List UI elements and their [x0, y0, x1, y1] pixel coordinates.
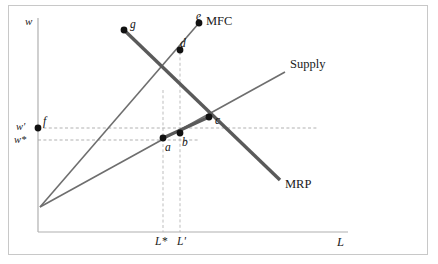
- curve-supply-emphasis: [163, 117, 209, 138]
- x-axis-label: L: [337, 236, 344, 249]
- point-label-e: e: [196, 11, 201, 23]
- point-f: [35, 125, 42, 132]
- y-axis-label: w: [25, 16, 32, 27]
- point-label-d: d: [180, 38, 186, 50]
- curve-label-supply: Supply: [290, 58, 325, 71]
- x-tick-L-prime: L': [177, 236, 186, 248]
- curve-label-mfc: MFC: [206, 15, 232, 28]
- y-tick-w-prime: w': [16, 122, 25, 133]
- point-label-f: f: [43, 116, 46, 128]
- curve-label-mrp: MRP: [285, 178, 311, 191]
- point-label-g: g: [130, 19, 136, 31]
- diagram-canvas: [0, 0, 438, 264]
- point-label-a: a: [165, 142, 171, 154]
- point-label-b: b: [182, 137, 188, 149]
- point-label-c: c: [215, 115, 220, 127]
- point-c: [206, 114, 213, 121]
- curve-mrp: [124, 30, 280, 180]
- x-tick-L-star: L*: [155, 236, 167, 248]
- y-tick-w-star: w*: [14, 135, 26, 146]
- point-g: [121, 27, 128, 34]
- curve-mfc: [40, 23, 199, 207]
- economics-diagram-figure: w L L* L' w' w* MFC Supply MRP g e d c b…: [0, 0, 438, 264]
